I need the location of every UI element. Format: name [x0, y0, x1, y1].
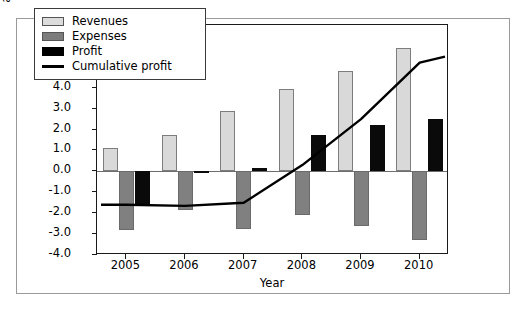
legend-item-line: Cumulative profit	[42, 59, 199, 74]
y-axis-tick-label: -4.0	[25, 248, 71, 259]
legend-item-pro: Profit	[42, 44, 199, 59]
legend-label: Profit	[72, 45, 102, 58]
legend-item-exp: Expenses	[42, 29, 199, 44]
legend-label: Expenses	[72, 30, 127, 43]
y-axis-tick-label: 0.0	[25, 164, 71, 175]
y-axis-tick-label: 1.0	[25, 143, 71, 154]
legend-swatch-rev-icon	[42, 17, 64, 26]
chart-legend: RevenuesExpensesProfitCumulative profit	[34, 8, 206, 80]
y-axis-tick-label: 3.0	[25, 102, 71, 113]
legend-item-rev: Revenues	[42, 14, 199, 29]
y-axis-title: Revenues, expenses, profit, and cumulati…	[0, 0, 13, 42]
y-axis-tick-label: 4.0	[25, 81, 71, 92]
legend-label: Revenues	[72, 15, 128, 28]
legend-swatch-line-icon	[42, 65, 64, 68]
x-axis-tick-label-2010: 2010	[384, 258, 454, 272]
y-axis-tick-label: 2.0	[25, 123, 71, 134]
legend-swatch-exp-icon	[42, 32, 64, 41]
y-axis-tick-label: -1.0	[25, 185, 71, 196]
y-axis-tick-label: -2.0	[25, 206, 71, 217]
x-axis-title: Year	[96, 276, 448, 290]
chart-figure: Revenues, expenses, profit, and cumulati…	[0, 0, 526, 312]
legend-swatch-pro-icon	[42, 47, 64, 56]
legend-label: Cumulative profit	[72, 60, 172, 73]
y-axis-tick	[92, 254, 97, 255]
y-axis-tick-label: -3.0	[25, 227, 71, 238]
